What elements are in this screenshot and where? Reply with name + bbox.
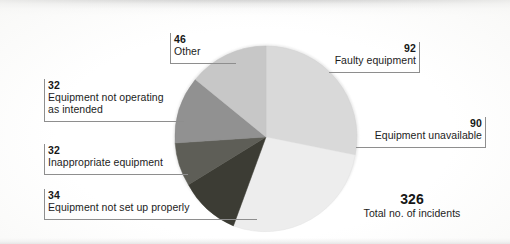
callout-not-operating-leader-horizontal <box>44 121 184 122</box>
callout-inappropriate-leader-horizontal <box>44 174 188 175</box>
callout-not-set-up-properly: 34 Equipment not set up properly <box>48 190 218 213</box>
total-incidents-callout: 326 Total no. of incidents <box>348 192 476 219</box>
callout-unavailable-label: Equipment unavailable <box>358 129 482 141</box>
callout-faulty-label: Faulty equipment <box>316 54 416 66</box>
callout-faulty-leader-vertical <box>419 42 420 73</box>
callout-inappropriate-equipment: 32 Inappropriate equipment <box>48 145 198 168</box>
pie-chart-figure: 46 Other 32 Equipment not operating as i… <box>0 0 510 244</box>
callout-other-value: 46 <box>174 34 240 45</box>
callout-not-set-up-label: Equipment not set up properly <box>48 201 218 213</box>
callout-equipment-unavailable: 90 Equipment unavailable <box>358 118 482 141</box>
total-incidents-value: 326 <box>348 192 476 207</box>
callout-not-operating-value: 32 <box>48 80 188 91</box>
callout-unavailable-value: 90 <box>358 118 482 129</box>
callout-inappropriate-label: Inappropriate equipment <box>48 156 198 168</box>
callout-unavailable-leader-vertical <box>485 117 486 148</box>
callout-not-operating-label-line2: as intended <box>48 103 188 115</box>
callout-not-operating-as-intended: 32 Equipment not operating as intended <box>48 80 188 115</box>
callout-other-leader-horizontal <box>170 63 236 64</box>
callout-inappropriate-leader-vertical <box>44 144 45 175</box>
callout-other-leader-vertical <box>170 33 171 64</box>
callout-faulty-value: 92 <box>316 43 416 54</box>
callout-not-set-up-leader-horizontal <box>44 219 257 220</box>
callout-faulty-leader-horizontal <box>329 72 420 73</box>
callout-not-operating-label-line1: Equipment not operating <box>48 91 188 103</box>
callout-inappropriate-value: 32 <box>48 145 198 156</box>
callout-not-set-up-value: 34 <box>48 190 218 201</box>
callout-not-set-up-leader-vertical <box>44 189 45 220</box>
callout-faulty-equipment: 92 Faulty equipment <box>316 43 416 66</box>
total-incidents-label: Total no. of incidents <box>348 207 476 219</box>
callout-other-label: Other <box>174 45 240 57</box>
callout-not-operating-leader-vertical <box>44 79 45 122</box>
callout-unavailable-leader-horizontal <box>356 147 486 148</box>
callout-other: 46 Other <box>174 34 240 57</box>
